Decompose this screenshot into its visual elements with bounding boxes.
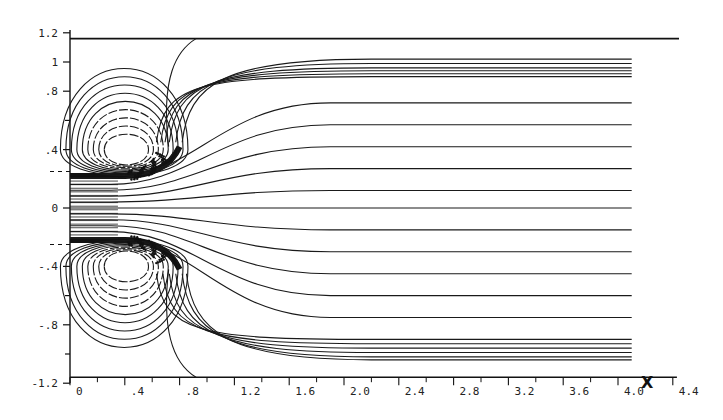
- y-tick-label: 1: [51, 56, 58, 69]
- y-tick-label: .8: [45, 85, 58, 98]
- x-tick-label: 4.4: [679, 385, 699, 398]
- x-tick-label: .4: [131, 385, 145, 398]
- y-tick-label: 0: [51, 202, 58, 215]
- y-tick-label: .4: [45, 144, 59, 157]
- y-tick-label: -.4: [38, 260, 58, 273]
- x-tick-label: 2.4: [405, 385, 425, 398]
- y-tick-label: -1.2: [32, 377, 59, 390]
- x-axis-label: X: [641, 373, 654, 392]
- x-tick-label: 2.8: [460, 385, 480, 398]
- x-tick-label: 3.6: [569, 385, 589, 398]
- x-tick-label: 1.2: [240, 385, 260, 398]
- streamlines: [60, 39, 631, 378]
- tick-labels: 1.21.8.40-.4-.8-1.20.4.81.21.62.02.42.83…: [32, 27, 700, 398]
- y-tick-label: 1.2: [38, 27, 58, 40]
- x-tick-label: 1.6: [295, 385, 315, 398]
- y-tick-label: -.8: [38, 319, 58, 332]
- x-tick-label: .8: [186, 385, 199, 398]
- x-tick-label: 3.2: [514, 385, 534, 398]
- x-tick-label: 0: [76, 385, 83, 398]
- streamline-plot: 1.21.8.40-.4-.8-1.20.4.81.21.62.02.42.83…: [0, 0, 723, 420]
- x-tick-label: 2.0: [350, 385, 370, 398]
